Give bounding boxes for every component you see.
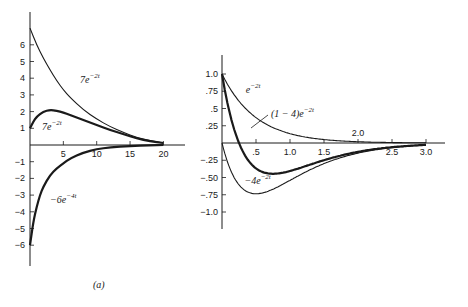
y-tick-label: −.50 (200, 173, 218, 183)
x-tick-label: 20 (158, 149, 168, 159)
y-tick-label: 1.0 (205, 69, 218, 79)
curve-label: 7e−2t (80, 72, 101, 85)
y-tick-label: −3 (15, 190, 25, 200)
curve-label: −4e−2t (244, 173, 271, 186)
figure-caption: (a) (93, 279, 105, 291)
y-tick-label: −.25 (200, 155, 218, 165)
y-tick-label: −2 (15, 173, 25, 183)
y-tick-label: 3 (20, 90, 25, 100)
curve-label: −6e−4t (50, 192, 77, 205)
y-tick-label: 6 (20, 40, 25, 50)
x-tick-label: 15 (125, 149, 135, 159)
y-tick-label: −4 (15, 207, 25, 217)
y-tick-label: −1.0 (200, 207, 218, 217)
x-tick-label: 1.5 (318, 147, 331, 157)
y-tick-label: −6 (15, 240, 25, 250)
y-tick-label: −5 (15, 224, 25, 234)
left-curve-labels: 7e−2t7e−2t−6e−4t (42, 72, 101, 205)
x-tick-label: 3.0 (420, 147, 433, 157)
y-tick-label: 5 (20, 57, 25, 67)
right-chart: .51.01.52.02.53.01.0.75.5.25−.25−.50−.75… (200, 55, 445, 229)
y-tick-label: −.75 (200, 190, 218, 200)
x-tick-label: 1.0 (284, 147, 297, 157)
y-tick-label: 2 (20, 107, 25, 117)
y-tick-label: .75 (205, 86, 218, 96)
x-tick-label: 5 (61, 149, 66, 159)
x-tick-label: .5 (252, 147, 260, 157)
curve-label: 7e−2t (42, 119, 63, 132)
y-tick-label: .25 (205, 121, 218, 131)
y-tick-label: 1 (20, 123, 25, 133)
left-curves (30, 28, 163, 245)
figure: 5101520654321−1−2−3−4−5−6 7e−2t7e−2t−6e−… (0, 0, 468, 307)
right-curve-labels: e−2t(1 − 4)e−2t−4e−2t (244, 82, 315, 186)
x-tick-label: 2.0 (352, 128, 365, 138)
leader-line (251, 115, 268, 128)
curve-label: e−2t (246, 82, 262, 95)
curve-label: (1 − 4)e−2t (271, 106, 315, 120)
left-chart: 5101520654321−1−2−3−4−5−6 7e−2t7e−2t−6e−… (15, 12, 185, 266)
y-tick-label: .5 (210, 104, 218, 114)
y-tick-label: 4 (20, 73, 25, 83)
y-tick-label: −1 (15, 157, 25, 167)
